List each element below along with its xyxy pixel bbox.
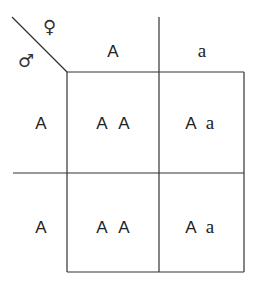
allele-2: A: [118, 218, 130, 237]
cell-r1-c2: A a: [185, 112, 214, 133]
female-symbol-icon: ♀: [43, 16, 56, 37]
row-header-2: A: [35, 218, 47, 237]
column-header-2: a: [198, 40, 207, 61]
male-symbol-icon: ♂: [18, 50, 34, 71]
column-header-1: A: [107, 42, 119, 61]
cell-r1-c1: A A: [96, 114, 130, 133]
cell-r2-c2: A a: [185, 216, 214, 237]
row-header-1: A: [35, 114, 47, 133]
allele-1: A: [185, 218, 197, 237]
allele-1: A: [96, 114, 108, 133]
allele-2: A: [118, 114, 130, 133]
allele-1: A: [96, 218, 108, 237]
allele-2: a: [206, 112, 215, 133]
allele-1: A: [185, 114, 197, 133]
punnett-square: ♀ ♂ A a A A A A A a A A A a: [0, 0, 254, 285]
allele-2: a: [206, 216, 215, 237]
cell-r2-c1: A A: [96, 218, 130, 237]
